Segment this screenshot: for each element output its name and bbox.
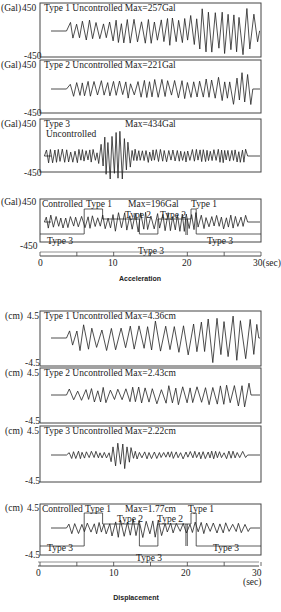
waveform: [51, 73, 260, 105]
y-unit-label: (Gal): [1, 119, 21, 130]
y-max-label: 450: [22, 3, 37, 13]
panel-title: Controlled: [42, 504, 83, 514]
disp-panel-type3: (cm) 4.5 -4.5 Type 3 Uncontrolled Max=2.…: [5, 426, 261, 486]
panel-max: Max=434Gal: [125, 119, 176, 129]
control-label-type2: Type 2: [157, 514, 183, 524]
disp-panel-type1: (cm) 4.5 -4.5 Type 1 Uncontrolled Max=4.…: [5, 311, 261, 368]
waveform: [51, 9, 260, 55]
accel-panel-type3: (Gal) 450 -450 Type 3 Uncontrolled Max=4…: [1, 119, 261, 179]
panel-title: Type 3: [44, 119, 70, 129]
panel-title: Controlled: [42, 199, 83, 209]
waveform: [51, 519, 260, 537]
x-tick-label: 0: [36, 568, 41, 578]
panel-subtitle: Uncontrolled: [46, 129, 96, 139]
panel-max: Max=1.77cm: [125, 504, 177, 514]
panel-max: Max=196Gal: [128, 199, 179, 209]
y-unit-label: (Gal): [1, 3, 21, 14]
displacement-section: (cm) 4.5 -4.5 Type 1 Uncontrolled Max=4.…: [5, 311, 262, 602]
x-axis-unit: (sec): [243, 577, 261, 588]
x-tick-label: 0: [38, 258, 43, 268]
y-unit-label: (Gal): [1, 60, 21, 71]
panel-title: Type 2 Uncontrolled Max=2.43cm: [44, 368, 176, 378]
y-unit-label: (cm): [5, 426, 23, 437]
x-tick-label: 20: [182, 258, 192, 268]
accel-panel-type1: (Gal) 450 -450 Type 1 Uncontrolled Max=2…: [1, 3, 261, 61]
disp-x-axis: 0 10 20 30 (sec): [36, 562, 262, 588]
control-label-type3: Type 3: [213, 543, 239, 553]
accel-panel-controlled: (Gal) 450 -450 Controlled Max=196Gal Typ…: [1, 197, 261, 256]
y-max-label: 4.5: [27, 426, 39, 436]
y-max-label: 450: [22, 119, 37, 129]
control-label-type3: Type 3: [207, 236, 233, 246]
x-tick-label: 30(sec): [253, 258, 281, 269]
panel-title: Type 3 Uncontrolled Max=2.22cm: [44, 426, 176, 436]
control-label-type1: Type 1: [188, 504, 214, 514]
control-label-type1: Type 1: [191, 199, 217, 209]
y-min-label: -450: [24, 108, 42, 118]
control-label-type3: Type 3: [47, 543, 73, 553]
y-min-label: -450: [20, 241, 38, 251]
y-max-label: 4.5: [27, 311, 39, 321]
y-unit-label: (cm): [5, 368, 23, 379]
y-unit-label: (cm): [5, 503, 23, 514]
waveform: [51, 383, 260, 407]
y-max-label: 450: [22, 60, 37, 70]
x-tick-label: 10: [108, 258, 118, 268]
y-min-label: -450: [24, 168, 42, 178]
acceleration-section: (Gal) 450 -450 Type 1 Uncontrolled Max=2…: [1, 3, 281, 282]
y-max-label: 4.5: [27, 503, 39, 513]
y-min-label: -4.5: [25, 550, 40, 560]
y-min-label: -4.5: [25, 416, 40, 426]
panel-title: Type 1 Uncontrolled Max=4.36cm: [44, 311, 176, 321]
y-unit-label: (Gal): [1, 197, 21, 208]
y-min-label: -4.5: [25, 476, 40, 486]
y-max-label: 450: [22, 197, 37, 207]
section-caption: Acceleration: [119, 275, 161, 282]
x-tick-label: 20: [181, 568, 191, 578]
panel-title: Type 2 Uncontrolled Max=221Gal: [44, 60, 176, 70]
control-label-type1: Type 1: [85, 504, 111, 514]
control-label-type3: Type 3: [136, 553, 162, 563]
waveform: [51, 443, 260, 468]
waveform: [51, 316, 260, 363]
y-min-label: -4.5: [25, 358, 40, 368]
control-label-type3: Type 3: [138, 246, 164, 256]
accel-panel-type2: (Gal) 450 -450 Type 2 Uncontrolled Max=2…: [1, 60, 261, 118]
section-caption: Displacement: [113, 594, 159, 602]
waveform: [44, 212, 260, 232]
control-label-type1: Type 1: [86, 199, 112, 209]
x-tick-label: 10: [109, 568, 119, 578]
figure: (Gal) 450 -450 Type 1 Uncontrolled Max=2…: [0, 0, 281, 612]
control-label-type3: Type 3: [47, 236, 73, 246]
panel-title: Type 1 Uncontrolled Max=257Gal: [44, 3, 176, 13]
y-max-label: 4.5: [27, 368, 39, 378]
y-unit-label: (cm): [5, 311, 23, 322]
disp-panel-controlled: (cm) 4.5 -4.5 Controlled Max=1.77cm Type…: [5, 503, 261, 563]
disp-panel-type2: (cm) 4.5 -4.5 Type 2 Uncontrolled Max=2.…: [5, 368, 261, 426]
